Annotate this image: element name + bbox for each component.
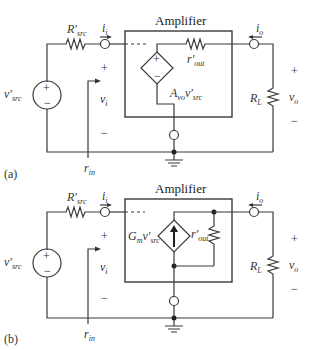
rout-label: r′out (191, 227, 209, 243)
amplifier-circuit-diagram: + − v′src R′src ii + vi − rin Amplifier … (0, 0, 310, 350)
svg-text:−: − (44, 264, 51, 278)
svg-text:−: − (154, 69, 161, 83)
vi-label: vi (100, 260, 108, 276)
rin-label: rin (84, 161, 95, 177)
source-plus: + (43, 81, 50, 95)
ii-label: ii (102, 189, 108, 205)
rl-resistor-icon (268, 254, 278, 318)
rout-resistor-icon (183, 39, 250, 49)
ground-terminal-icon (170, 131, 179, 140)
vi-label: vi (100, 92, 108, 108)
svg-text:−: − (291, 282, 298, 296)
ground-icon (165, 326, 183, 332)
amplifier-title: Amplifier (155, 181, 207, 196)
source-minus: − (44, 96, 51, 110)
input-terminal-icon (101, 40, 110, 49)
output-terminal-icon (250, 208, 259, 217)
svg-text:+: + (101, 229, 108, 243)
ii-label: ii (102, 21, 108, 37)
rsrc-label: R′src (66, 190, 87, 206)
panel-a: + − v′src R′src ii + vi − rin Amplifier … (4, 13, 298, 181)
io-arrow-icon (248, 35, 253, 39)
dep-source-label: Avov′src (169, 86, 203, 102)
wire-bottom (47, 277, 273, 318)
vo-label: vo (289, 90, 298, 106)
rl-label: RL (249, 259, 262, 275)
amplifier-title: Amplifier (155, 13, 207, 28)
rsrc-resistor-icon (63, 39, 100, 49)
rin-arrow-icon (88, 249, 98, 324)
rsrc-resistor-icon (63, 207, 100, 217)
vo-label: vo (289, 258, 298, 274)
ii-arrow-icon (107, 203, 112, 207)
panel-tag: (b) (4, 332, 18, 346)
rin-label: rin (84, 327, 95, 343)
rl-resistor-icon (268, 86, 278, 152)
input-terminal-icon (101, 208, 110, 217)
io-label: io (256, 189, 263, 205)
output-terminal-icon (250, 40, 259, 49)
vi-minus: − (101, 126, 108, 140)
io-label: io (256, 21, 263, 37)
rsrc-label: R′src (66, 22, 87, 38)
wire-source-top (47, 44, 63, 82)
rout-label: r′out (187, 52, 205, 68)
svg-text:+: + (43, 249, 50, 263)
ground-terminal-icon (170, 297, 179, 306)
io-arrow-icon (248, 203, 253, 207)
rout-resistor-icon (209, 212, 219, 266)
svg-text:+: + (153, 52, 160, 66)
current-arrow-icon (170, 225, 178, 232)
vi-plus: + (101, 61, 108, 75)
wire-bottom (47, 109, 273, 152)
source-label: v′src (4, 255, 22, 271)
svg-text:+: + (291, 232, 298, 246)
rin-arrow-icon (88, 81, 98, 158)
source-label: v′src (4, 87, 22, 103)
ground-icon (165, 160, 183, 166)
svg-text:+: + (291, 64, 298, 78)
rl-label: RL (249, 91, 262, 107)
dep-source-label: Gmv′src (128, 229, 160, 245)
panel-b: + − v′src R′src ii + vi − rin Amplifier … (4, 181, 298, 346)
panel-tag: (a) (4, 167, 17, 181)
svg-text:−: − (101, 291, 108, 305)
svg-text:−: − (291, 114, 298, 128)
